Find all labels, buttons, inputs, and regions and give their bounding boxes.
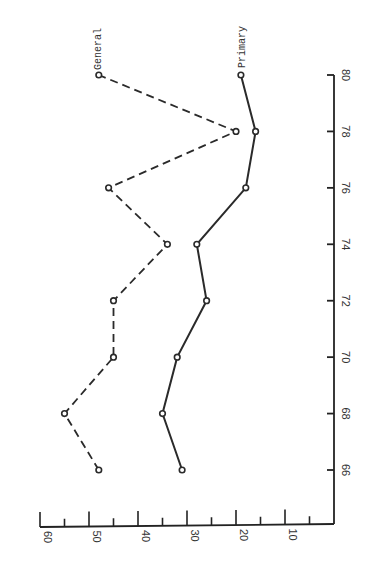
series-label-general: General xyxy=(93,28,104,70)
year-tick-label: 74 xyxy=(340,238,352,250)
value-tick-label: 40 xyxy=(140,530,152,542)
data-point-marker xyxy=(174,354,180,360)
data-point-marker xyxy=(194,241,200,247)
series-label-primary: Primary xyxy=(237,26,248,68)
year-tick-label: 78 xyxy=(340,125,352,137)
year-tick-label: 66 xyxy=(340,464,352,476)
data-point-marker xyxy=(111,298,117,304)
data-point-marker xyxy=(179,467,185,473)
data-point-marker xyxy=(233,129,239,135)
value-tick-label: 50 xyxy=(91,531,103,543)
value-tick-label: 10 xyxy=(287,529,299,541)
data-point-marker xyxy=(96,467,102,473)
data-point-marker xyxy=(165,241,171,247)
series-primary xyxy=(160,72,259,473)
year-tick-label: 76 xyxy=(340,182,352,194)
series-general xyxy=(62,72,239,473)
series-line xyxy=(65,75,237,470)
value-tick-label: 30 xyxy=(189,530,201,542)
data-point-marker xyxy=(62,411,68,417)
year-tick-label: 70 xyxy=(340,351,352,363)
line-chart: 6668707274767880 102030405060 General Pr… xyxy=(0,0,377,566)
value-tick-label: 20 xyxy=(238,529,250,541)
data-point-marker xyxy=(253,129,259,135)
year-axis-ticks: 6668707274767880 xyxy=(327,69,352,476)
year-tick-label: 72 xyxy=(340,295,352,307)
value-tick-label: 60 xyxy=(42,531,54,543)
year-tick-label: 68 xyxy=(340,407,352,419)
data-point-marker xyxy=(204,298,210,304)
data-point-marker xyxy=(96,72,102,78)
data-point-marker xyxy=(238,72,244,78)
data-point-marker xyxy=(106,185,112,191)
data-point-marker xyxy=(243,185,249,191)
data-point-marker xyxy=(111,354,117,360)
year-tick-label: 80 xyxy=(340,69,352,81)
data-point-marker xyxy=(160,411,166,417)
series-line xyxy=(163,75,256,470)
